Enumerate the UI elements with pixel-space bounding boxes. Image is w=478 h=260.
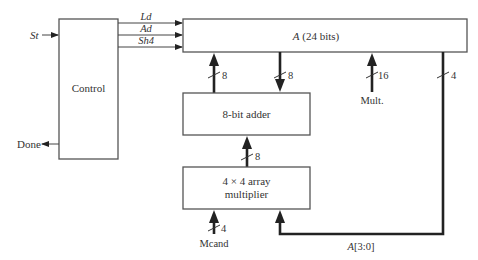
mcand-input-bus: 4 Mcand [199,210,229,249]
control-block: Control [59,19,118,159]
up-arrow-icon [209,53,219,66]
start-signal: St [30,29,58,41]
done-signal: Done [17,138,59,150]
down-arrow-icon [275,79,285,92]
multiplier-block: 4 × 4 array multiplier [183,167,310,209]
load-label: Ld [139,11,152,22]
a-low-feedback-bus: 4 A[3:0] [275,52,457,252]
done-label: Done [17,138,41,150]
a-low-width: 4 [451,70,457,81]
a-to-adder-bus: 8 [274,52,293,92]
control-label: Control [72,82,106,94]
block-diagram: Control St Done Ld Ad Sh4 A (24 bits) 8 … [0,0,478,260]
a-to-adder-width: 8 [288,70,293,81]
a-low-label: A[3:0] [347,241,375,252]
up-arrow-icon [367,53,377,66]
a-low-range: [3:0] [354,241,374,252]
adder-to-a-width: 8 [222,70,227,81]
adder-label: 8-bit adder [223,108,271,120]
register-a-size: (24 bits) [300,30,340,43]
up-arrow-icon [242,136,252,149]
adder-block: 8-bit adder [183,93,310,135]
mult-to-adder-width: 8 [255,151,260,162]
mult-label: Mult. [360,95,383,106]
mcand-width: 4 [221,223,227,234]
multiplier-label-line1: 4 × 4 array [222,175,271,187]
mult-input-width: 16 [378,70,389,81]
add-label: Ad [139,23,152,34]
control-signals: Ld Ad Sh4 [118,11,182,47]
shift-label: Sh4 [138,35,155,46]
adder-to-a-bus: 8 [208,53,227,93]
up-arrow-icon [275,210,285,223]
mult-input-bus: 16 Mult. [360,53,388,106]
register-a-label: A (24 bits) [292,30,340,43]
mcand-label: Mcand [199,238,229,249]
start-label: St [30,29,40,41]
multiplier-label-line2: multiplier [225,188,269,200]
up-arrow-icon [209,210,219,223]
register-a-block: A (24 bits) [183,19,467,52]
mult-to-adder-bus: 8 [241,136,260,167]
